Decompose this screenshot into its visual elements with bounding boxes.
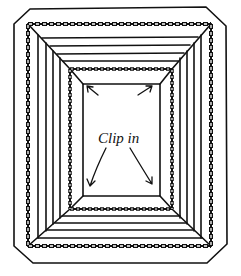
arrow-top-right-icon: [138, 86, 152, 95]
clip-in-label: Clip in: [98, 130, 139, 147]
arrow-bottom-left-icon: [87, 148, 106, 186]
arrow-top-left-icon: [87, 86, 98, 95]
arrow-bottom-right-icon: [130, 148, 152, 184]
